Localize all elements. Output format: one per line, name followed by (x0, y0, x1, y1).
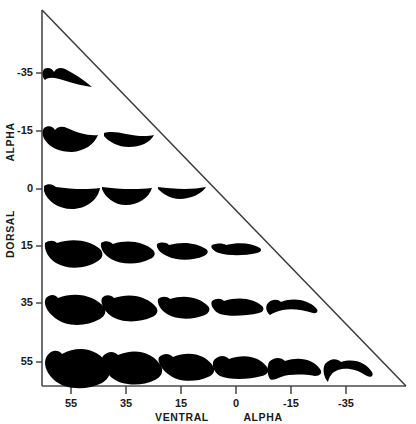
x-tick-label-4: -15 (283, 397, 299, 409)
y-tick-label-2: 0 (27, 182, 33, 194)
x-axis-ticks (71, 386, 346, 394)
silhouette-15-15 (157, 243, 208, 260)
silhouette-15-35 (101, 241, 155, 263)
silhouette-35--15 (266, 300, 317, 315)
silhouette-35-0 (211, 299, 263, 316)
glyph-row--15 (43, 126, 154, 152)
x-axis-tick-labels: 55 35 15 0 -15 -35 (65, 397, 354, 409)
silhouette-35-15 (158, 297, 210, 319)
glyph-row-55 (45, 349, 373, 388)
y-axis-tick-labels: -35 -15 0 15 35 55 (17, 66, 33, 367)
silhouette-15-0 (211, 243, 261, 255)
y-axis-title-alpha: ALPHA (4, 122, 16, 161)
y-tick-label-4: 35 (21, 296, 33, 308)
silhouette-0-55 (44, 184, 100, 209)
silhouette--15-55 (43, 126, 98, 152)
y-axis-ticks (36, 73, 42, 362)
silhouette-55--15 (268, 358, 322, 380)
silhouette-55--35 (324, 359, 373, 382)
silhouette-0-35 (102, 187, 152, 205)
y-axis-title-dorsal: DORSAL (4, 210, 16, 258)
x-tick-label-3: 0 (233, 397, 239, 409)
x-axis-title-ventral: VENTRAL (155, 411, 209, 423)
hypotenuse-line (42, 10, 406, 386)
y-tick-label-0: -35 (17, 66, 33, 78)
x-tick-label-1: 35 (120, 397, 132, 409)
x-axis-title-alpha: ALPHA (243, 411, 282, 423)
y-tick-label-1: -15 (17, 124, 33, 136)
glyph-row-35 (45, 295, 318, 325)
silhouette-55-35 (102, 351, 162, 384)
silhouette--35-55 (43, 68, 92, 87)
silhouette-15-55 (45, 240, 103, 267)
silhouette-55-55 (45, 349, 110, 388)
glyph-row-15 (45, 240, 261, 267)
silhouette-55-15 (158, 354, 214, 381)
y-tick-label-5: 55 (21, 355, 33, 367)
silhouette-0-15 (158, 187, 206, 199)
y-tick-label-3: 15 (21, 239, 33, 251)
figure-panel: -35 -15 0 15 35 55 55 35 15 0 -15 -35 (0, 0, 416, 424)
x-tick-label-0: 55 (65, 397, 77, 409)
silhouette-55-0 (213, 356, 268, 379)
silhouette-35-55 (45, 295, 106, 325)
silhouette--15-35 (104, 132, 154, 147)
silhouette-35-35 (101, 295, 157, 321)
glyph-row--35 (43, 68, 92, 87)
glyph-row-0 (44, 184, 206, 209)
triangular-silhouette-plot: -35 -15 0 15 35 55 55 35 15 0 -15 -35 (0, 0, 416, 424)
x-tick-label-5: -35 (338, 397, 354, 409)
axis-frame (42, 10, 406, 386)
x-tick-label-2: 15 (175, 397, 187, 409)
